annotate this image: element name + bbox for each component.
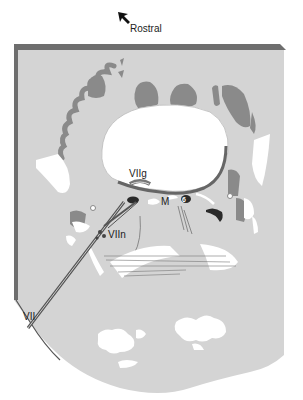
right-dark-block-1 (228, 170, 240, 196)
top-border (14, 44, 286, 50)
rostral-label: Rostral (130, 24, 162, 34)
six-label: 6 (182, 196, 186, 203)
small-ring-right (228, 194, 233, 199)
viin-label: VIIn (108, 230, 126, 240)
cavity (102, 105, 228, 192)
anatomical-cross-section (0, 0, 303, 400)
m-label: M (161, 197, 169, 207)
viig-label: VIIg (129, 169, 147, 179)
white-cloud-right (175, 315, 226, 341)
vii-label: VII (23, 312, 35, 322)
small-ring-left (91, 206, 96, 211)
left-border (14, 44, 18, 300)
arrow-up-left-icon (118, 12, 130, 24)
